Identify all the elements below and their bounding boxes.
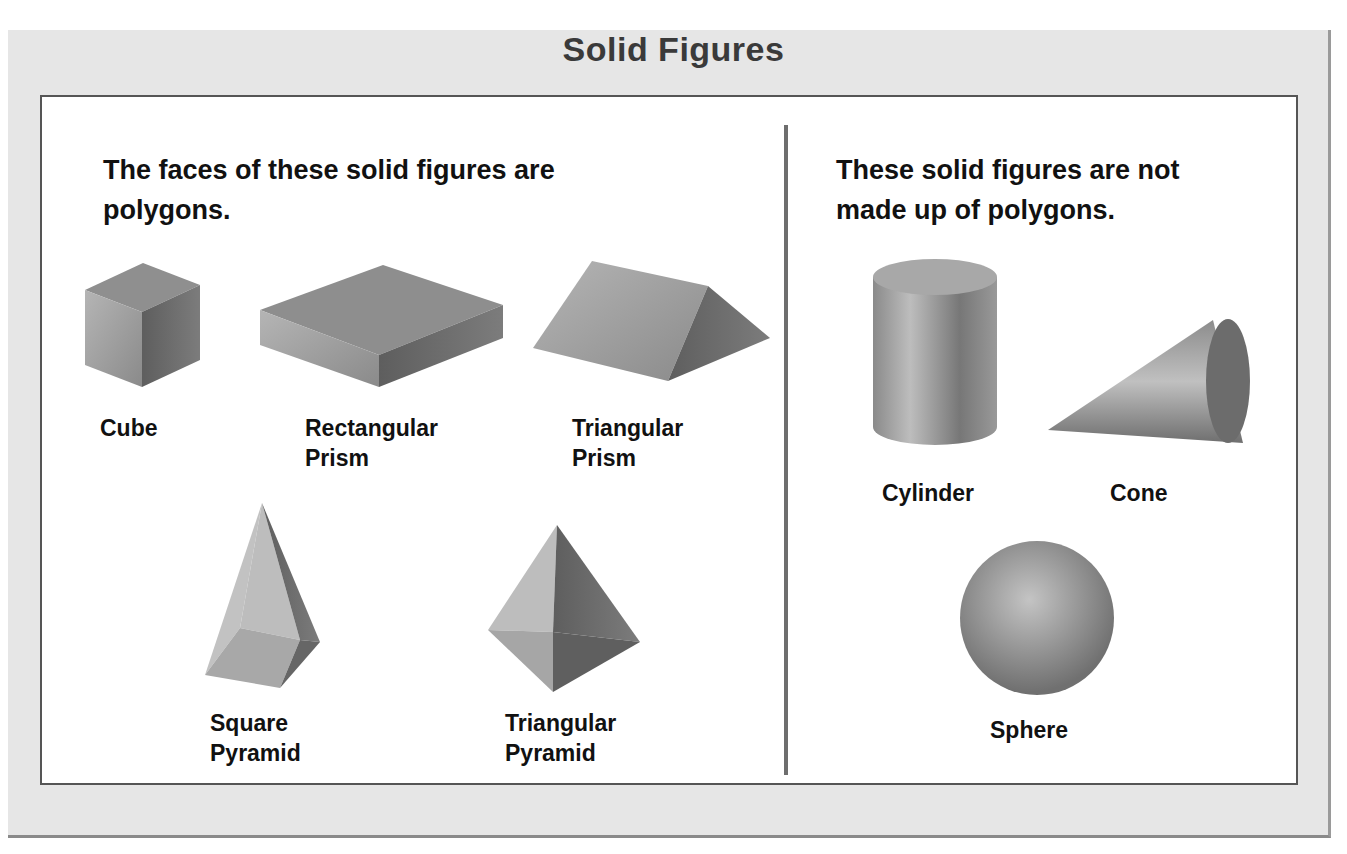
right-heading: These solid figures are not made up of p…: [836, 150, 1180, 230]
triangular-prism-label: Triangular Prism: [572, 413, 683, 473]
triangular-prism-icon: [530, 258, 775, 388]
sphere-label: Sphere: [990, 715, 1068, 745]
cylinder-label: Cylinder: [882, 478, 974, 508]
triangular-pyramid-label: Triangular Pyramid: [505, 708, 616, 768]
rectangular-prism-label: Rectangular Prism: [305, 413, 438, 473]
cylinder-icon: [868, 255, 1003, 450]
rectangular-prism-icon: [255, 260, 510, 390]
page-title: Solid Figures: [0, 30, 1347, 69]
sphere-icon: [958, 538, 1118, 700]
square-pyramid-icon: [200, 500, 330, 690]
left-heading: The faces of these solid figures are pol…: [103, 150, 555, 230]
triangular-pyramid-icon: [485, 522, 645, 697]
cube-label: Cube: [100, 413, 158, 443]
cube-icon: [80, 260, 210, 390]
cone-icon: [1045, 315, 1260, 450]
square-pyramid-label: Square Pyramid: [210, 708, 301, 768]
panel-divider: [784, 125, 788, 775]
cone-label: Cone: [1110, 478, 1168, 508]
